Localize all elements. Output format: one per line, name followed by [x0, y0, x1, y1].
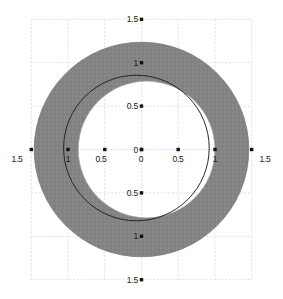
x-tick-label-6: 1.5	[259, 155, 270, 164]
y-tick-label-6: 1.5	[127, 275, 138, 284]
x-tick-label-3: 0	[139, 155, 144, 164]
y-tick-label-2: 0.5	[127, 102, 138, 111]
y-tick-label-3: 0	[133, 145, 138, 154]
x-tick-label-1: 1	[66, 155, 71, 164]
y-tick-label-0: 1.5	[127, 15, 138, 24]
x-tick-label-5: 1	[213, 155, 218, 164]
x-tick-label-4: 0.5	[172, 155, 183, 164]
y-tick-label-1: 1	[133, 58, 138, 67]
plot-figure	[0, 0, 283, 299]
plot-canvas: 1.5 1 0.5 0 0.5 1 1.5 1.5 1 0.5 0 0.5 1 …	[0, 0, 283, 299]
x-tick-label-0: 1.5	[11, 155, 22, 164]
y-tick-label-4: 0.5	[127, 189, 138, 198]
x-tick-label-2: 0.5	[95, 155, 106, 164]
y-tick-label-5: 1	[133, 232, 138, 241]
